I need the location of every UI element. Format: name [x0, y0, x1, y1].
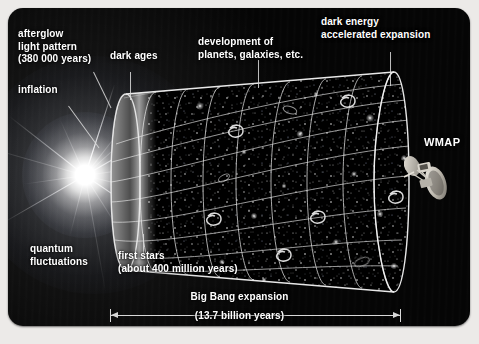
- leader-line-dark-ages: [130, 72, 131, 100]
- label-duration: (13.7 billion years): [0, 310, 479, 323]
- leader-line-dark-energy: [390, 52, 391, 86]
- figure-canvas: afterglow light pattern (380 000 years) …: [0, 0, 479, 344]
- label-dark-ages: dark ages: [110, 50, 158, 63]
- label-inflation: inflation: [18, 84, 58, 97]
- wmap-satellite-icon: [400, 150, 454, 212]
- label-big-bang-expansion: Big Bang expansion: [0, 291, 479, 304]
- label-first-stars: first stars (about 400 million years): [118, 250, 238, 275]
- label-dark-energy: dark energy accelerated expansion: [321, 16, 430, 41]
- label-quantum-fluctuations: quantum fluctuations: [30, 243, 88, 268]
- label-wmap: WMAP: [424, 136, 460, 149]
- leader-line-development: [258, 60, 259, 88]
- label-development: development of planets, galaxies, etc.: [198, 36, 303, 61]
- label-afterglow-light-pattern: afterglow light pattern (380 000 years): [18, 28, 91, 66]
